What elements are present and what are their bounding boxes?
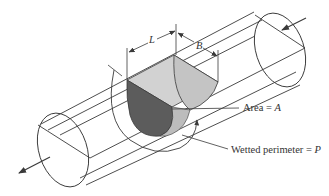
- area-leader: [172, 108, 239, 109]
- flow-out-arrow: [19, 157, 50, 173]
- left-end-diameter: [38, 125, 90, 158]
- L-dim-right: [157, 31, 175, 39]
- perimeter-tick: [108, 65, 122, 76]
- area-label: Area = A: [243, 102, 282, 113]
- length-label: L: [148, 34, 155, 45]
- pipe-flow-diagram: L B Area = A Wetted perimeter = P: [0, 0, 329, 196]
- area-label-text: Area =: [243, 102, 275, 113]
- L-dim-left: [129, 43, 148, 52]
- perimeter-symbol: P: [314, 144, 322, 155]
- flow-in-arrow: [282, 18, 306, 30]
- pipe-left-end: [28, 106, 97, 193]
- B-dim-left: [178, 33, 194, 42]
- top-width-label: B: [196, 40, 203, 51]
- B-dim-right: [203, 48, 217, 56]
- diagram-canvas: L B Area = A Wetted perimeter = P: [0, 0, 329, 196]
- perimeter-label-text: Wetted perimeter =: [231, 144, 315, 155]
- area-symbol: A: [274, 102, 282, 113]
- perimeter-label: Wetted perimeter = P: [231, 144, 322, 155]
- water-section: [127, 55, 218, 136]
